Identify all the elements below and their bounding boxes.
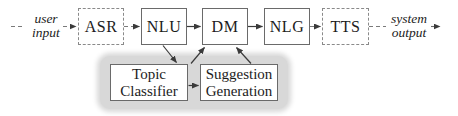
node-nlg: NLG [264,8,310,45]
node-nlu-label: NLU [147,18,181,36]
system-output-line2: output [387,26,431,40]
user-input-label: user input [26,12,66,40]
diagram-canvas: user input system output ASR NLU DM NLG … [0,0,458,116]
node-nlg-label: NLG [270,18,304,36]
system-output-label: system output [387,12,431,40]
topic-classifier-line2: Classifier [120,83,178,100]
suggestion-generation-line1: Suggestion [206,66,273,83]
user-input-line2: input [26,26,66,40]
node-tts-label: TTS [331,18,361,36]
suggestion-generation-line2: Generation [206,83,273,100]
topic-classifier-line1: Topic [132,66,166,83]
node-tts: TTS [322,8,369,45]
system-output-line1: system [387,12,431,26]
node-asr: ASR [78,8,124,45]
node-topic-classifier: Topic Classifier [110,64,188,101]
node-dm-label: DM [212,18,239,36]
node-dm: DM [202,8,248,45]
node-suggestion-generation: Suggestion Generation [200,64,278,101]
user-input-line1: user [26,12,66,26]
node-asr-label: ASR [85,18,118,36]
node-nlu: NLU [141,8,187,45]
